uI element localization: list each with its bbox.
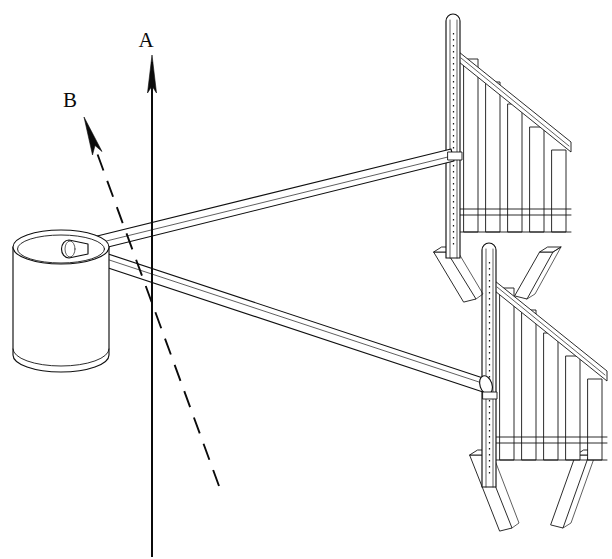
upper-frame-post [446,14,460,258]
slat-upper-2 [486,82,500,232]
vector-a-label: A [138,28,154,52]
slat-upper-4 [530,127,544,232]
slat-upper-1 [464,59,478,232]
figure-root: A B [0,0,612,559]
slat-lower-4 [566,356,580,460]
technical-drawing-svg: A B [0,0,612,559]
upper-strut-bracket [448,152,462,160]
lower-strut-bracket [483,392,497,399]
slat-lower-3 [544,333,558,460]
drum [13,230,109,372]
lower-frame-post [482,243,496,487]
drum-body [13,247,109,372]
vector-b-label: B [63,88,77,112]
slat-lower-2 [522,310,536,460]
slat-lower-5 [588,379,602,460]
slat-upper-5 [552,150,566,232]
slat-upper-3 [508,104,522,232]
slat-lower-1 [500,288,514,460]
